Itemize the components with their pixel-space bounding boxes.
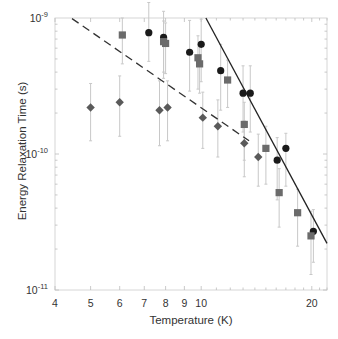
diamond-marker (214, 122, 222, 130)
square-marker (162, 40, 169, 47)
y-tick-label: 10-9 (30, 10, 48, 24)
y-tick-label: 10-11 (26, 282, 48, 296)
circle-marker (217, 67, 224, 74)
diamond-marker (115, 98, 123, 106)
circle-marker (198, 41, 205, 48)
circle-marker (247, 90, 254, 97)
circle-marker (282, 145, 289, 152)
diamond-marker (199, 113, 207, 121)
circle-marker (239, 90, 246, 97)
diamond-marker (86, 103, 94, 111)
circle-marker (186, 49, 193, 56)
y-tick-label: 10-10 (25, 146, 48, 160)
square-marker (307, 232, 314, 239)
square-marker (119, 31, 126, 38)
square-marker (196, 60, 203, 67)
x-tick-label: 20 (306, 297, 318, 309)
diamond-marker (254, 153, 262, 161)
x-tick-label: 8 (163, 297, 169, 309)
x-tick-label: 7 (141, 297, 147, 309)
chart: 456789102010-1110-1010-9 (0, 0, 338, 339)
x-tick-label: 4 (52, 297, 58, 309)
square-marker (241, 121, 248, 128)
x-tick-label: 9 (181, 297, 187, 309)
data-markers (86, 29, 317, 239)
x-tick-label: 6 (117, 297, 123, 309)
square-marker (294, 209, 301, 216)
circle-marker (145, 29, 152, 36)
diamond-marker (155, 106, 163, 114)
x-tick-label: 5 (88, 297, 94, 309)
square-marker (262, 145, 269, 152)
circle-marker (274, 157, 281, 164)
x-tick-label: 10 (195, 297, 207, 309)
square-marker (224, 76, 231, 83)
y-axis-label: Energy Relaxation Time (s) (16, 71, 28, 231)
x-axis-label: Temperature (K) (55, 314, 327, 326)
solid-fit (206, 18, 327, 243)
square-marker (276, 189, 283, 196)
diamond-marker (163, 103, 171, 111)
